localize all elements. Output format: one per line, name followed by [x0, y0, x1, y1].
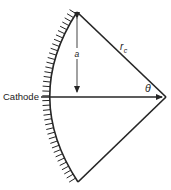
angle-theta-label: θ: [145, 82, 151, 94]
cathode-geometry-figure: Cathode a rc θ: [0, 0, 171, 190]
radius-rc-subscript: c: [124, 47, 128, 54]
radius-a-label: a: [75, 49, 80, 59]
diagram-canvas: Cathode a rc θ: [0, 0, 171, 190]
hatch-tick: [43, 105, 50, 106]
cathode-label: Cathode: [3, 91, 39, 102]
hatch-tick: [43, 86, 50, 87]
